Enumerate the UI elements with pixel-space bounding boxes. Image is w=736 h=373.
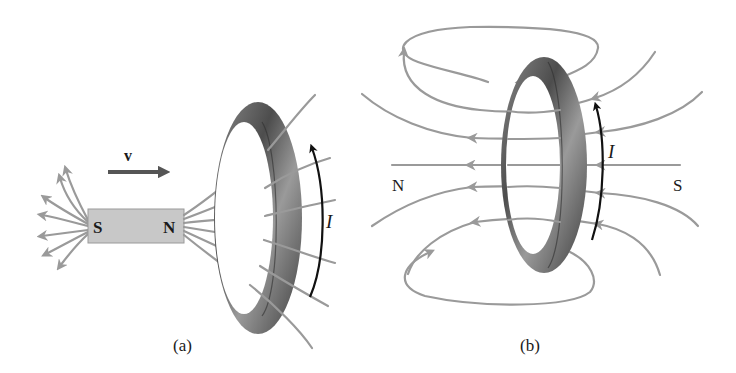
current-label-a: I (325, 211, 334, 232)
conducting-ring-a (214, 102, 302, 334)
current-arrow-icon (310, 148, 323, 297)
current-indicator-b: I (592, 106, 616, 240)
bar-magnet: S N (88, 209, 184, 243)
north-pole-label-b: N (392, 176, 404, 195)
conducting-ring-b (501, 57, 587, 273)
panel-a: S N v (42, 95, 335, 355)
magnet-north-label: N (163, 218, 176, 237)
caption-b: (b) (520, 336, 540, 355)
velocity-vector: v (108, 147, 164, 172)
velocity-label: v (124, 147, 132, 164)
panel-b: I N S (b) (362, 27, 702, 355)
induction-diagram: S N v (0, 0, 736, 373)
south-end-field-lines (42, 170, 88, 266)
magnet-south-label: S (93, 218, 102, 237)
current-arrow-icon-b (592, 106, 603, 240)
current-label-b: I (607, 141, 616, 162)
south-pole-label-b: S (673, 176, 682, 195)
caption-a: (a) (173, 336, 192, 355)
current-indicator-a: I (310, 148, 334, 297)
